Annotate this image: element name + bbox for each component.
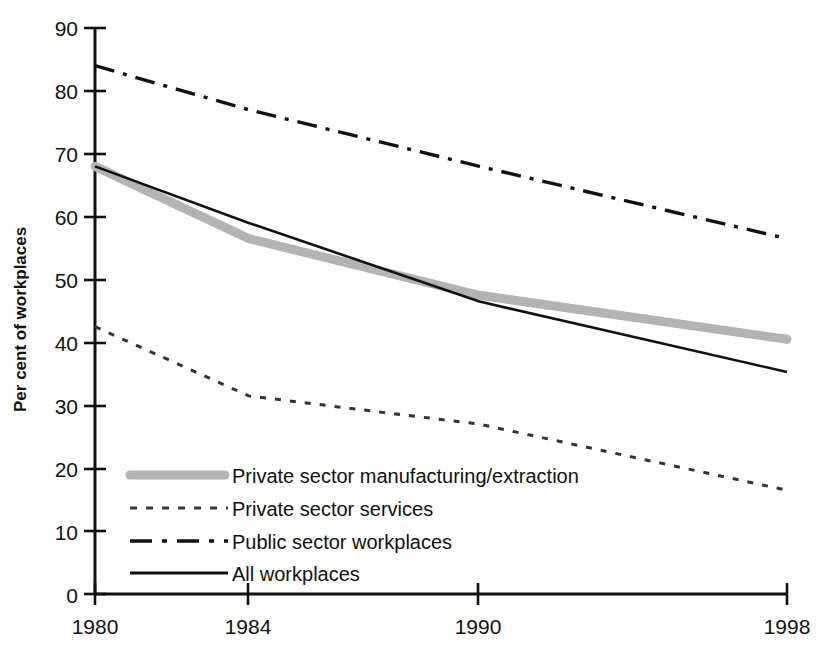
y-tick-label: 70 xyxy=(55,143,78,166)
legend: Private sector manufacturing/extraction … xyxy=(130,465,579,585)
x-tick-label: 1984 xyxy=(225,615,272,638)
series-group xyxy=(95,66,787,491)
x-tick-label: 1998 xyxy=(764,615,811,638)
chart-container: Per cent of workplaces 90 80 70 60 50 40… xyxy=(0,0,823,667)
y-tick-label: 90 xyxy=(55,17,78,40)
y-tick-label: 50 xyxy=(55,269,78,292)
y-tick-label: 60 xyxy=(55,206,78,229)
x-tick-labels: 1980 1984 1990 1998 xyxy=(72,615,811,638)
y-tick-label: 30 xyxy=(55,395,78,418)
series-all-workplaces xyxy=(95,166,787,372)
y-tick-label: 80 xyxy=(55,80,78,103)
y-tick-label: 20 xyxy=(55,458,78,481)
legend-label-private-sector-manufacturing-extraction: Private sector manufacturing/extraction xyxy=(232,465,579,487)
y-tick-label: 40 xyxy=(55,332,78,355)
x-tick-label: 1980 xyxy=(72,615,119,638)
y-tick-label: 10 xyxy=(55,521,78,544)
legend-label-all-workplaces: All workplaces xyxy=(232,563,360,585)
series-private-sector-manufacturing-extraction xyxy=(95,166,787,339)
y-axis-title: Per cent of workplaces xyxy=(11,227,30,412)
y-tick-label: 0 xyxy=(66,584,78,607)
y-tick-labels: 90 80 70 60 50 40 30 20 10 0 xyxy=(55,17,78,607)
line-chart-plot: Per cent of workplaces 90 80 70 60 50 40… xyxy=(0,0,823,667)
legend-label-private-sector-services: Private sector services xyxy=(232,498,433,520)
legend-label-public-sector-workplaces: Public sector workplaces xyxy=(232,531,452,553)
x-tick-label: 1990 xyxy=(455,615,502,638)
